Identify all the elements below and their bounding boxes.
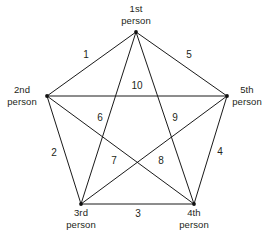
edge-number-label-7: 7	[106, 156, 122, 166]
edges-group	[47, 32, 227, 204]
edge-number-label-5: 5	[181, 50, 197, 60]
edge-number-label-10: 10	[129, 81, 145, 91]
vertex-label-person: person	[154, 219, 234, 231]
vertex-dot-v3	[79, 202, 83, 206]
vertex-label-ordinal: 3rd	[41, 207, 121, 219]
vertex-label-person: person	[0, 96, 62, 108]
vertex-label-ordinal: 1st	[96, 3, 176, 15]
k5-graph-svg	[0, 0, 270, 241]
vertex-label-person: person	[96, 15, 176, 27]
vertex-label-ordinal: 4th	[154, 207, 234, 219]
vertex-dot-v4	[192, 202, 196, 206]
vertex-label-v4: 4thperson	[154, 207, 234, 230]
vertex-dot-v1	[134, 30, 138, 34]
edge-number-label-8: 8	[153, 156, 169, 166]
edge-number-label-6: 6	[92, 113, 108, 123]
vertex-label-ordinal: 2nd	[0, 84, 62, 96]
edge-number-label-1: 1	[78, 50, 94, 60]
vertex-label-v5: 5thperson	[207, 84, 270, 107]
vertex-label-v3: 3rdperson	[41, 207, 121, 230]
vertex-label-v1: 1stperson	[96, 3, 176, 26]
pentagon-handshake-diagram: 1stperson2ndperson5thperson3rdperson4thp…	[0, 0, 270, 241]
vertex-label-person: person	[41, 219, 121, 231]
edge-number-label-2: 2	[46, 148, 62, 158]
vertex-label-ordinal: 5th	[207, 84, 270, 96]
vertex-label-person: person	[207, 96, 270, 108]
edge-number-label-3: 3	[130, 209, 146, 219]
edge-number-label-9: 9	[167, 113, 183, 123]
vertex-label-v2: 2ndperson	[0, 84, 62, 107]
edge-number-label-4: 4	[212, 147, 228, 157]
